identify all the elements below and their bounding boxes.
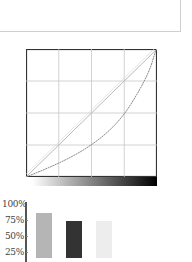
bar-1 — [36, 213, 52, 258]
ytick-100: 100% — [2, 200, 24, 209]
tick-mark — [26, 220, 28, 221]
bar-2 — [66, 221, 82, 258]
ytick-50: 50% — [2, 232, 24, 241]
curve-svg — [26, 49, 157, 177]
tick-mark — [26, 252, 28, 253]
tick-mark — [26, 236, 28, 237]
gradient-bar — [32, 177, 157, 186]
ytick-25: 25% — [2, 248, 24, 257]
top-empty-panel — [0, 0, 181, 32]
tone-curve-chart[interactable] — [26, 49, 157, 177]
percentage-bar-chart: 100% 75% 50% 25% — [0, 200, 192, 258]
bar-3 — [96, 221, 112, 258]
y-axis — [25, 202, 27, 262]
ytick-75: 75% — [2, 216, 24, 225]
